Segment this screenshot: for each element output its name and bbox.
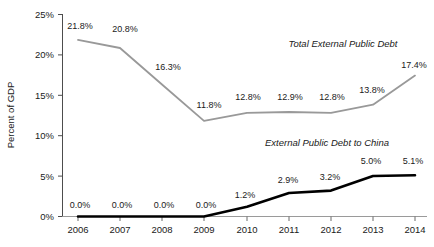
data-label-china-2008: 0.0% [154, 200, 175, 210]
x-tick-label-2010: 2010 [236, 224, 257, 235]
x-tick-label-2009: 2009 [193, 224, 214, 235]
y-tick-label-0: 0% [40, 211, 54, 222]
line-chart: 25% 20% 15% 10% 5% 0% Percent of GDP 200… [0, 0, 434, 247]
y-tick-label-5: 5% [40, 171, 54, 182]
series-line-total-external-public-debt [78, 40, 415, 121]
data-label-china-2013: 5.0% [361, 156, 382, 166]
y-tick-label-25: 25% [35, 9, 55, 20]
series-annotation-china: External Public Debt to China [265, 137, 389, 148]
x-axis: 2006 2007 2008 2009 2010 2011 2012 2013 … [63, 217, 428, 236]
chart-container: 25% 20% 15% 10% 5% 0% Percent of GDP 200… [0, 0, 434, 247]
data-label-total-2006: 21.8% [67, 21, 93, 31]
data-label-total-2010: 12.8% [235, 92, 261, 102]
data-label-total-2011: 12.9% [277, 92, 303, 102]
x-tick-label-2007: 2007 [109, 224, 130, 235]
data-label-china-2010: 1.2% [235, 190, 256, 200]
data-label-total-2008: 16.3% [155, 62, 181, 72]
data-label-china-2007: 0.0% [112, 200, 133, 210]
data-label-total-2012: 12.8% [319, 92, 345, 102]
data-label-china-2011: 2.9% [278, 175, 299, 185]
y-tick-label-20: 20% [35, 49, 55, 60]
data-label-total-2007: 20.8% [112, 24, 138, 34]
data-label-china-2014: 5.1% [403, 156, 424, 166]
y-axis: 25% 20% 15% 10% 5% 0% Percent of GDP [5, 9, 63, 222]
y-tick-label-15: 15% [35, 90, 55, 101]
data-label-total-2009: 11.8% [197, 100, 222, 110]
data-label-china-2009: 0.0% [196, 200, 217, 210]
data-label-total-2013: 13.8% [359, 85, 385, 95]
x-tick-label-2013: 2013 [362, 224, 383, 235]
x-tick-label-2006: 2006 [67, 224, 88, 235]
data-label-china-2012: 3.2% [320, 172, 341, 182]
data-label-total-2014: 17.4% [401, 60, 427, 70]
data-labels-china: 0.0% 0.0% 0.0% 0.0% 1.2% 2.9% 3.2% 5.0% … [70, 156, 424, 210]
x-tick-label-2008: 2008 [151, 224, 172, 235]
data-label-china-2006: 0.0% [70, 200, 91, 210]
data-labels-total: 21.8% 20.8% 16.3% 11.8% 12.8% 12.9% 12.8… [67, 21, 427, 110]
y-tick-label-10: 10% [35, 130, 55, 141]
x-tick-label-2011: 2011 [279, 224, 299, 235]
series-annotation-total: Total External Public Debt [289, 38, 398, 49]
x-tick-label-2014: 2014 [404, 224, 425, 235]
x-tick-label-2012: 2012 [320, 224, 341, 235]
y-axis-title: Percent of GDP [5, 82, 16, 149]
